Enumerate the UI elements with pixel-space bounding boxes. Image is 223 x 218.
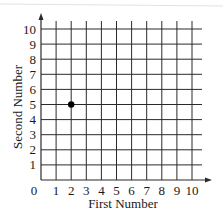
data-point (68, 101, 74, 107)
y-tick-label: 10 (23, 22, 36, 37)
y-tick-label: 1 (30, 157, 37, 172)
x-axis-arrow-icon (205, 178, 212, 183)
data-points (68, 101, 74, 107)
y-tick-label: 9 (30, 37, 37, 52)
y-tick-label: 7 (30, 67, 37, 82)
y-tick-label: 4 (30, 112, 37, 127)
x-tick-label: 10 (186, 183, 199, 198)
x-tick-label: 1 (53, 183, 60, 198)
grid-lines (41, 21, 202, 180)
page-edge-line (0, 4, 223, 6)
y-tick-label: 3 (30, 127, 37, 142)
y-tick-label: 8 (30, 52, 37, 67)
axes (39, 13, 213, 183)
x-tick-label: 9 (174, 183, 181, 198)
y-tick-label: 6 (30, 82, 37, 97)
y-tick-label: 5 (30, 97, 37, 112)
coordinate-grid-chart: 012345678910 12345678910 First Number Se… (0, 0, 223, 218)
y-axis-arrow-icon (39, 13, 44, 20)
x-tick-label: 8 (159, 183, 166, 198)
y-tick-label: 2 (30, 142, 37, 157)
x-tick-label: 0 (31, 183, 38, 198)
x-tick-label: 2 (68, 183, 75, 198)
y-tick-labels: 12345678910 (23, 22, 37, 173)
y-axis-label: Second Number (10, 64, 25, 149)
x-axis-label: First Number (88, 196, 158, 211)
